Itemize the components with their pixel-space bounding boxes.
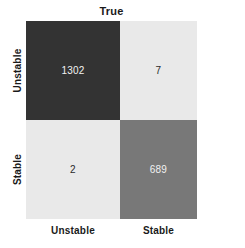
matrix-cell-unstable-stable: 7: [120, 21, 197, 120]
y-tick-label-unstable: Unstable: [10, 21, 26, 120]
confusion-matrix-figure: True Predicted 1302 7 2 689 Unstable Sta…: [0, 0, 245, 248]
x-tick-label-stable: Stable: [120, 224, 197, 238]
matrix-cell-stable-stable: 689: [120, 120, 197, 219]
cell-value: 1302: [61, 65, 84, 76]
matrix-cell-stable-unstable: 2: [26, 120, 120, 219]
y-tick-label-stable: Stable: [10, 120, 26, 219]
cell-value: 7: [156, 65, 162, 76]
x-axis-title: True: [26, 4, 197, 18]
cell-value: 2: [70, 164, 76, 175]
x-tick-label-unstable: Unstable: [26, 224, 120, 238]
cell-value: 689: [150, 164, 167, 175]
matrix-grid: 1302 7 2 689: [26, 21, 197, 219]
matrix-cell-unstable-unstable: 1302: [26, 21, 120, 120]
